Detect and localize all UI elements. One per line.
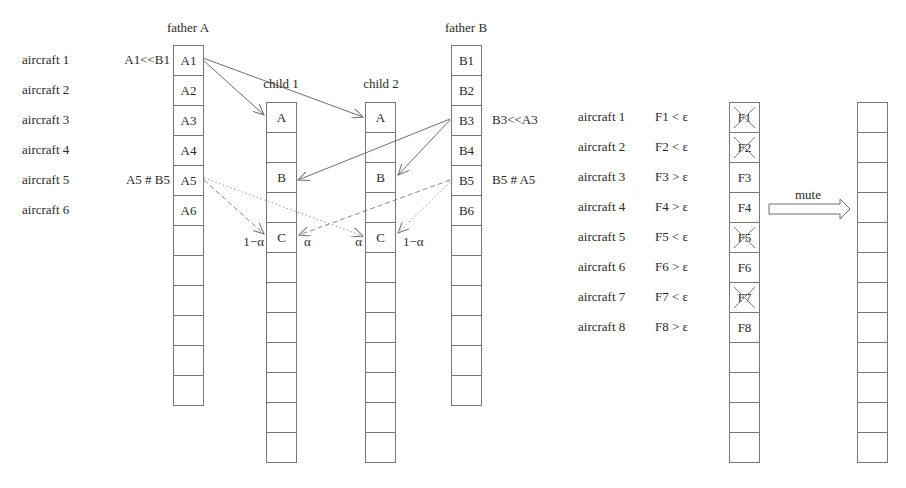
gene-cell: [452, 316, 481, 346]
gene-cell: [174, 376, 203, 406]
gene-cell: [267, 193, 296, 223]
gene-cell: [452, 286, 481, 316]
gene-cell: [267, 433, 296, 463]
fitness-condition: F7 < ε: [655, 289, 688, 305]
gene-cell: [366, 403, 395, 433]
gene-cell: A: [366, 103, 395, 133]
note-b3-dominates-a3: B3<<A3: [492, 112, 538, 128]
gene-cell: [267, 403, 296, 433]
gene-cell-empty: [730, 433, 759, 463]
gene-cell: [452, 376, 481, 406]
child-1-title: child 1: [263, 76, 299, 92]
gene-cell: [366, 133, 395, 163]
gene-cell: [267, 313, 296, 343]
gene-cell: B5: [452, 166, 481, 196]
gene-cell-empty: [858, 373, 887, 403]
mut-row-label: aircraft 1: [578, 109, 625, 125]
fitness-condition: F1 < ε: [655, 109, 688, 125]
gene-cell: [267, 283, 296, 313]
gene-cell-empty: [730, 343, 759, 373]
gene-cell: [267, 133, 296, 163]
gene-cell-empty: [858, 133, 887, 163]
mut-row-label: aircraft 7: [578, 289, 625, 305]
gene-cell: F8: [730, 313, 759, 343]
mutation-result-chromosome: [857, 102, 888, 463]
gene-cell: A5: [174, 166, 203, 196]
gene-cell: A3: [174, 106, 203, 136]
arrow-a1-to-child1-a: [203, 60, 264, 115]
gene-cell: [366, 373, 395, 403]
gene-cell: C: [366, 223, 395, 253]
child-1-weight-right: α: [304, 234, 311, 250]
gene-cell: A1: [174, 46, 203, 76]
mut-row-label: aircraft 8: [578, 319, 625, 335]
gene-cell: [452, 346, 481, 376]
arrow-a5-to-child1-c: [204, 180, 264, 234]
fitness-condition: F5 < ε: [655, 229, 688, 245]
child-2-weight-right: 1−α: [403, 234, 424, 250]
child-2-weight-left: α: [355, 234, 362, 250]
mut-row-label: aircraft 2: [578, 139, 625, 155]
gene-cell-empty: [858, 253, 887, 283]
gene-label: F4: [738, 200, 752, 216]
gene-cell-empty: [858, 433, 887, 463]
note-b5-incomparable-a5: B5 # A5: [492, 172, 535, 188]
gene-label: F2: [738, 140, 752, 156]
gene-cell: B: [267, 163, 296, 193]
gene-cell: A2: [174, 76, 203, 106]
gene-cell: [174, 226, 203, 256]
mut-row-label: aircraft 6: [578, 259, 625, 275]
gene-cell: B6: [452, 196, 481, 226]
row-label-aircraft-3: aircraft 3: [22, 112, 69, 128]
gene-cell: C: [267, 223, 296, 253]
row-label-aircraft-1: aircraft 1: [22, 52, 69, 68]
gene-cell: [452, 226, 481, 256]
gene-cell: A6: [174, 196, 203, 226]
gene-cell: F3: [730, 163, 759, 193]
gene-cell: [366, 283, 395, 313]
gene-cell: B: [366, 163, 395, 193]
child-2-title: child 2: [363, 76, 399, 92]
gene-cell: A4: [174, 136, 203, 166]
gene-cell: [452, 256, 481, 286]
gene-cell-empty: [858, 283, 887, 313]
child-1-chromosome: A B C: [266, 102, 297, 463]
gene-cell: [174, 286, 203, 316]
gene-cell: [267, 373, 296, 403]
row-label-aircraft-2: aircraft 2: [22, 82, 69, 98]
mut-row-label: aircraft 5: [578, 229, 625, 245]
fitness-condition: F8 > ε: [655, 319, 688, 335]
gene-cell: B1: [452, 46, 481, 76]
gene-cell-empty: [730, 403, 759, 433]
mut-row-label: aircraft 4: [578, 199, 625, 215]
gene-cell: [366, 253, 395, 283]
fitness-condition: F4 > ε: [655, 199, 688, 215]
row-label-aircraft-4: aircraft 4: [22, 142, 69, 158]
gene-cell-crossed: F2: [730, 133, 759, 163]
gene-cell: F4: [730, 193, 759, 223]
gene-cell: [366, 313, 395, 343]
father-b-chromosome: B1 B2 B3 B4 B5 B6: [451, 45, 482, 406]
gene-cell: A: [267, 103, 296, 133]
gene-cell: B4: [452, 136, 481, 166]
mut-row-label: aircraft 3: [578, 169, 625, 185]
gene-cell: [267, 253, 296, 283]
gene-cell: [174, 316, 203, 346]
father-a-title: father A: [167, 20, 209, 36]
note-a5-incomparable-b5: A5 # B5: [126, 172, 170, 188]
gene-label: F1: [738, 110, 752, 126]
gene-cell-crossed: F7: [730, 283, 759, 313]
gene-cell-empty: [858, 313, 887, 343]
child-2-chromosome: A B C: [365, 102, 396, 463]
fitness-condition: F3 > ε: [655, 169, 688, 185]
gene-cell-empty: [858, 163, 887, 193]
gene-cell: [174, 256, 203, 286]
mute-label: mute: [795, 187, 821, 203]
father-b-title: father B: [445, 20, 487, 36]
gene-cell-empty: [858, 223, 887, 253]
child-1-weight-left: 1−α: [243, 234, 264, 250]
gene-label: F3: [738, 170, 752, 186]
gene-cell: B2: [452, 76, 481, 106]
gene-cell: [267, 343, 296, 373]
gene-cell: [366, 433, 395, 463]
